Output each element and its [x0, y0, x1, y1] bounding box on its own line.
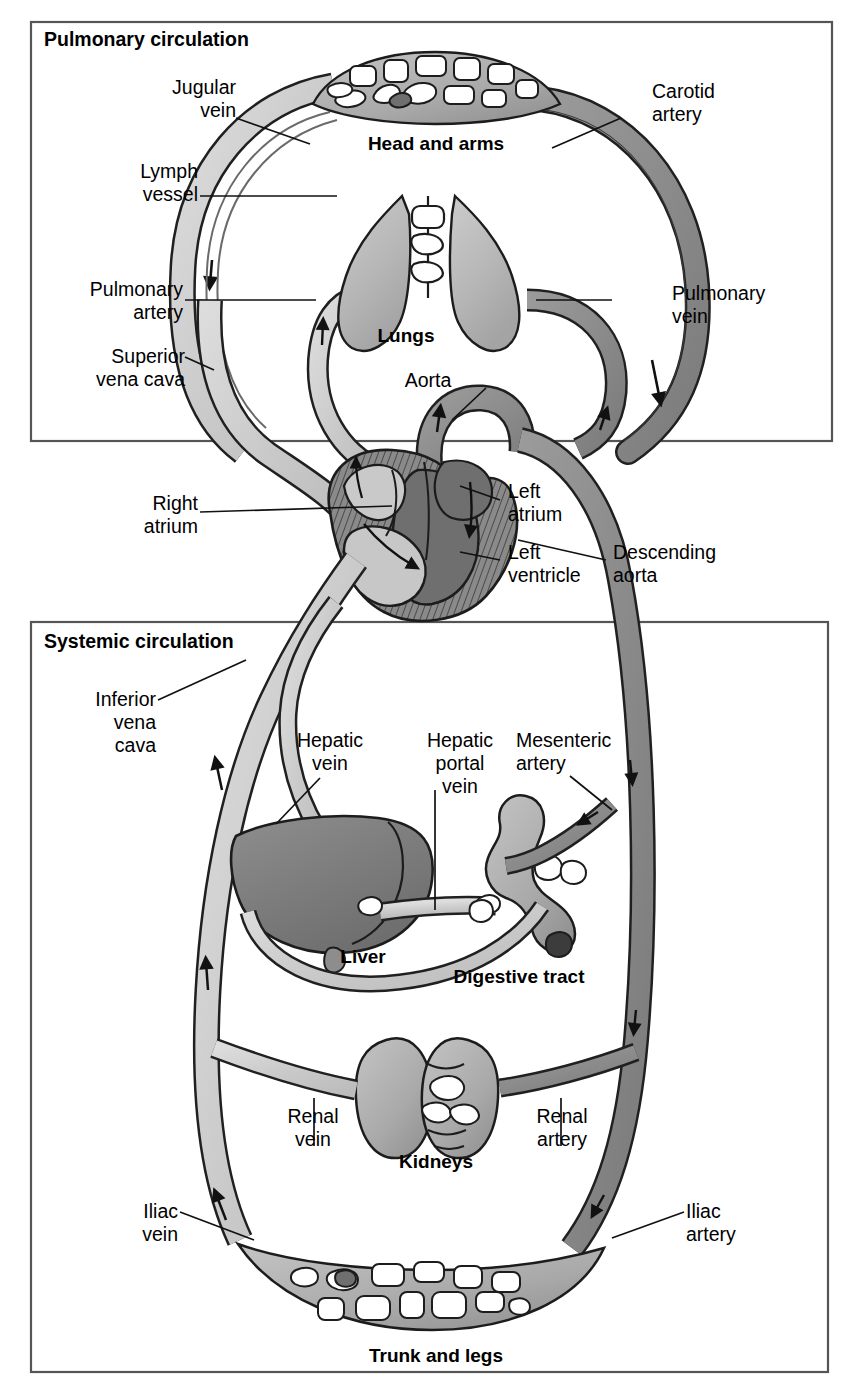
mesenteric-artery-label: Mesenteric artery: [516, 729, 611, 775]
head-and-arms-label: Head and arms: [368, 133, 504, 155]
circulatory-system-figure: Pulmonary circulation Systemic circulati…: [0, 0, 850, 1395]
hepatic-portal-vein-label: Hepatic portal vein: [427, 729, 493, 798]
head-and-arms-capillary-bed: [313, 52, 560, 124]
kidneys-organ: [356, 1038, 498, 1158]
inferior-vena-cava-label: Inferior vena cava: [95, 688, 156, 757]
iliac-vein-label: Iliac vein: [142, 1200, 178, 1246]
kidneys-label: Kidneys: [399, 1151, 473, 1173]
descending-aorta-label: Descending aorta: [613, 541, 716, 587]
superior-vena-cava-label: Superior vena cava: [96, 345, 185, 391]
hepatic-vein-label: Hepatic vein: [297, 729, 363, 775]
left-atrium-label: Left atrium: [508, 480, 562, 526]
carotid-artery-label: Carotid artery: [652, 80, 715, 126]
pulmonary-vein-vessel: [527, 300, 616, 449]
liver-label: Liver: [340, 946, 385, 968]
pulmonary-vein-label: Pulmonary vein: [672, 282, 765, 328]
iliac-artery-label: Iliac artery: [686, 1200, 736, 1246]
renal-vein-label: Renal vein: [288, 1105, 339, 1151]
jugular-vein-label: Jugular vein: [172, 76, 236, 122]
heart-organ: [329, 450, 517, 621]
aorta-label: Aorta: [405, 369, 452, 392]
pulmonary-circulation-title: Pulmonary circulation: [44, 28, 249, 51]
renal-vein-vessel: [214, 1048, 356, 1090]
left-ventricle-label: Left ventricle: [508, 541, 581, 587]
aortic-arch-vessel: [429, 398, 522, 470]
lungs-label: Lungs: [378, 325, 435, 347]
trunk-and-legs-capillary-bed: [238, 1244, 604, 1330]
systemic-circulation-title: Systemic circulation: [44, 630, 234, 653]
renal-artery-label: Renal artery: [537, 1105, 588, 1151]
lymph-vessel-label: Lymph vessel: [140, 160, 198, 206]
right-atrium-label: Right atrium: [144, 492, 198, 538]
pulmonary-artery-label: Pulmonary artery: [90, 278, 183, 324]
digestive-tract-label: Digestive tract: [454, 966, 585, 988]
trunk-and-legs-label: Trunk and legs: [369, 1345, 503, 1367]
renal-artery-vessel: [500, 1052, 636, 1088]
